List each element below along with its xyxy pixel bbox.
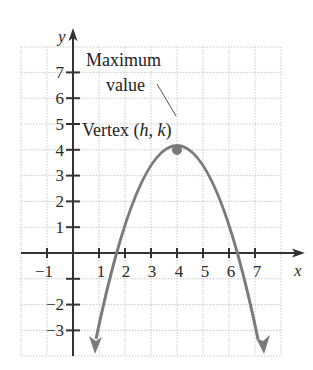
y-tick-label: 2 bbox=[56, 192, 65, 211]
parabola-chart: −1 1 2 3 4 5 6 7 7 6 5 4 3 2 1 −2 −3 y x… bbox=[0, 0, 313, 370]
vertex-label-h: h bbox=[139, 120, 148, 140]
x-tick-label: 6 bbox=[227, 262, 236, 281]
y-tick-label: 6 bbox=[56, 89, 65, 108]
y-tick-label: 4 bbox=[56, 141, 65, 160]
x-tick-label: −1 bbox=[35, 262, 53, 281]
y-tick-label: −2 bbox=[46, 295, 64, 314]
x-axis-label: x bbox=[293, 261, 302, 280]
vertex-label-prefix: Vertex ( bbox=[82, 120, 139, 141]
y-tick-label: 1 bbox=[56, 218, 65, 237]
maximum-label-line1: Maximum bbox=[86, 50, 161, 70]
x-tick-label: 7 bbox=[253, 262, 262, 281]
y-axis-label: y bbox=[56, 27, 66, 46]
x-tick-label: 2 bbox=[122, 262, 131, 281]
vertex-point bbox=[172, 145, 182, 155]
vertex-label-sep: , bbox=[148, 120, 157, 140]
vertex-label: Vertex (h, k) bbox=[82, 120, 171, 141]
y-tick-label: 5 bbox=[56, 115, 65, 134]
y-tick-label: 3 bbox=[56, 166, 65, 185]
x-tick-label: 1 bbox=[97, 262, 106, 281]
maximum-pointer-line bbox=[157, 84, 176, 116]
x-tick-label: 3 bbox=[148, 262, 157, 281]
maximum-label-line2: value bbox=[106, 75, 145, 95]
y-tick-label: 7 bbox=[56, 63, 65, 82]
x-tick-label: 5 bbox=[201, 262, 210, 281]
y-tick-label: −3 bbox=[46, 321, 64, 340]
vertex-label-suffix: ) bbox=[165, 120, 171, 141]
x-tick-label: 4 bbox=[175, 262, 184, 281]
